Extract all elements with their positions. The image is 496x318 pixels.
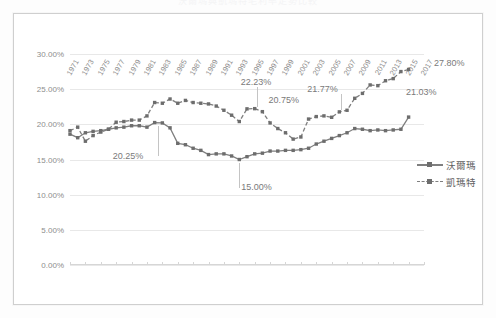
series-marker (91, 134, 94, 137)
series-marker (384, 129, 387, 132)
series-marker (338, 134, 341, 137)
series-marker (384, 79, 387, 82)
series-marker (122, 120, 125, 123)
series-marker (230, 154, 233, 157)
series-marker (207, 153, 210, 156)
series-marker (315, 142, 318, 145)
series-marker (307, 147, 310, 150)
series-marker (261, 151, 264, 154)
series-marker (392, 128, 395, 131)
series-marker (245, 155, 248, 158)
chart-title: 沃爾瑪與凱瑪特毛利率走勢比較 (0, 0, 496, 7)
data-label: 27.80% (434, 58, 465, 68)
data-label: 20.75% (269, 95, 300, 105)
series-marker (230, 113, 233, 116)
series-marker (253, 152, 256, 155)
legend-item-label: 沃爾瑪 (446, 158, 476, 172)
y-axis-tick-label: 15.00% (37, 155, 64, 164)
series-marker (238, 120, 241, 123)
series-marker (114, 126, 117, 129)
series-marker (68, 132, 71, 135)
series-marker (215, 104, 218, 107)
label-leader-line (239, 163, 240, 188)
series-marker (368, 129, 371, 132)
series-marker (284, 131, 287, 134)
series-marker (84, 131, 87, 134)
series-marker (222, 152, 225, 155)
series-marker (338, 110, 341, 113)
series-marker (199, 149, 202, 152)
series-marker (68, 129, 71, 132)
series-marker (99, 130, 102, 133)
y-axis-tick-label: 20.00% (37, 120, 64, 129)
y-axis-tick-label: 10.00% (37, 190, 64, 199)
legend-item-1[interactable]: 沃爾瑪 (417, 156, 476, 173)
series-marker (291, 149, 294, 152)
series-marker (268, 121, 271, 124)
series-marker (245, 107, 248, 110)
series-marker (207, 102, 210, 105)
series-marker (191, 101, 194, 104)
x-axis-tick (424, 262, 425, 265)
series-marker (191, 147, 194, 150)
legend-line-marker-icon (417, 160, 443, 169)
series-marker (161, 102, 164, 105)
series-marker (399, 70, 402, 73)
y-axis-tick-label: 30.00% (37, 50, 64, 59)
series-marker (268, 149, 271, 152)
series-marker (153, 101, 156, 104)
series-marker (176, 102, 179, 105)
series-marker (361, 128, 364, 131)
plot-area: 0.00%5.00%10.00%15.00%20.00%25.00%30.00%… (70, 54, 424, 265)
series-marker (322, 140, 325, 143)
series-marker (345, 109, 348, 112)
series-line (70, 69, 409, 141)
series-marker (392, 77, 395, 80)
legend-item-2[interactable]: 凱瑪特 (417, 173, 476, 190)
series-marker (114, 121, 117, 124)
y-axis-tick-label: 5.00% (41, 225, 64, 234)
series-marker (276, 127, 279, 130)
series-marker (138, 118, 141, 121)
data-label: 20.25% (113, 151, 144, 161)
series-marker (407, 115, 410, 118)
data-label: 15.00% (241, 182, 272, 192)
chart-screenshot: 沃爾瑪與凱瑪特毛利率走勢比較 0.00%5.00%10.00%15.00%20.… (0, 0, 496, 318)
label-leader-line (257, 87, 258, 107)
series-marker (176, 142, 179, 145)
data-label: 21.77% (307, 84, 338, 94)
legend: 沃爾瑪凱瑪特 (417, 156, 476, 190)
series-marker (353, 97, 356, 100)
series-marker (376, 128, 379, 131)
series-marker (130, 124, 133, 127)
series-marker (215, 152, 218, 155)
series-marker (345, 131, 348, 134)
series-marker (184, 99, 187, 102)
label-leader-line (341, 94, 342, 110)
series-marker (145, 125, 148, 128)
series-marker (161, 121, 164, 124)
series-2 (68, 68, 410, 143)
series-marker (368, 83, 371, 86)
series-marker (184, 143, 187, 146)
legend-item-label: 凱瑪特 (446, 175, 476, 189)
series-marker (299, 148, 302, 151)
series-marker (138, 124, 141, 127)
series-marker (376, 84, 379, 87)
y-axis-tick-label: 0.00% (41, 261, 64, 270)
series-marker (145, 114, 148, 117)
series-marker (322, 114, 325, 117)
series-marker (407, 68, 410, 71)
series-marker (307, 117, 310, 120)
legend-dashed-line-marker-icon (417, 177, 443, 186)
series-marker (199, 102, 202, 105)
series-marker (276, 149, 279, 152)
chart-frame: 0.00%5.00%10.00%15.00%20.00%25.00%30.00%… (13, 13, 483, 305)
series-marker (91, 130, 94, 133)
series-marker (107, 128, 110, 131)
series-marker (330, 116, 333, 119)
gridline (70, 265, 424, 266)
series-marker (284, 149, 287, 152)
series-marker (84, 140, 87, 143)
series-marker (261, 110, 264, 113)
